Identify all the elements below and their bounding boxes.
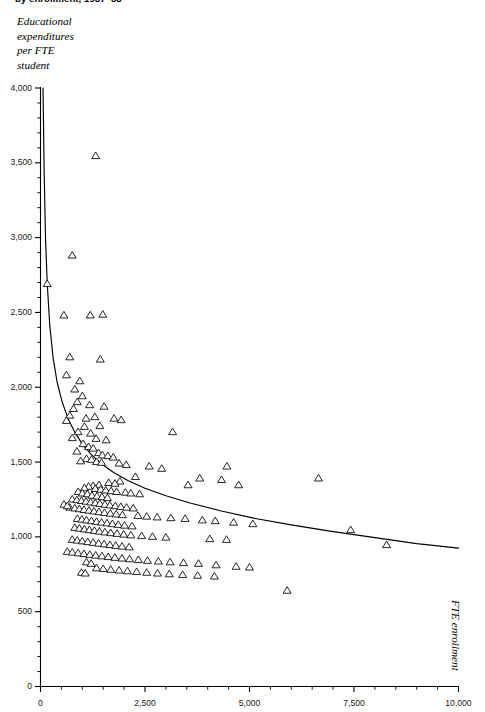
data-point-marker: [125, 543, 133, 550]
data-point-marker: [82, 415, 90, 422]
data-point-marker: [122, 461, 130, 468]
data-point-marker: [235, 481, 243, 488]
data-point-marker: [145, 462, 153, 469]
data-point-marker: [123, 567, 131, 574]
axis-layer: [35, 87, 459, 692]
fit-curve: [43, 88, 458, 548]
data-point-marker: [118, 543, 126, 550]
data-point-marker: [134, 512, 142, 519]
data-point-marker: [143, 569, 151, 576]
data-point-marker: [123, 504, 131, 511]
data-point-marker: [166, 558, 174, 565]
data-point-marker: [73, 447, 81, 454]
y-axis-tick-label: 1,500: [2, 457, 32, 467]
data-point-marker: [80, 423, 88, 430]
data-point-marker: [117, 416, 125, 423]
data-point-marker: [129, 504, 137, 511]
data-point-marker: [107, 529, 115, 536]
data-point-marker: [86, 311, 94, 318]
data-point-marker: [144, 557, 152, 564]
data-point-marker: [92, 152, 100, 159]
data-point-marker: [92, 551, 100, 558]
y-axis-tick-label: 2,500: [2, 307, 32, 317]
data-point-marker: [126, 555, 134, 562]
data-point-marker: [179, 559, 187, 566]
data-point-marker: [111, 554, 119, 561]
data-point-marker: [78, 392, 86, 399]
regression-curve: [43, 88, 458, 548]
data-point-marker: [283, 587, 291, 594]
data-point-marker: [217, 476, 225, 483]
data-point-marker: [184, 481, 192, 488]
data-point-marker: [347, 526, 355, 533]
y-axis-caption: Educational expenditures per FTE student: [17, 14, 74, 72]
data-point-marker: [104, 553, 112, 560]
chart-title: by enrollment, 1987–88: [15, 0, 122, 4]
data-point-marker: [112, 542, 120, 549]
data-point-marker: [127, 531, 135, 538]
data-point-marker: [102, 436, 110, 443]
data-point-marker: [114, 521, 122, 528]
y-axis-caption-line-3: per FTE: [17, 43, 74, 58]
data-point-marker: [121, 522, 129, 529]
data-point-marker: [62, 371, 70, 378]
data-point-marker: [71, 385, 79, 392]
y-axis-tick-label: 500: [2, 606, 32, 616]
data-point-marker: [91, 413, 99, 420]
y-axis-caption-line-2: expenditures: [17, 29, 74, 44]
data-point-marker: [120, 531, 128, 538]
data-point-marker: [98, 552, 106, 559]
data-point-marker: [196, 474, 204, 481]
data-point-marker: [107, 566, 115, 573]
data-point-marker: [76, 377, 84, 384]
data-point-marker: [212, 561, 220, 568]
data-point-marker: [154, 557, 162, 564]
data-point-marker: [118, 511, 126, 518]
data-point-marker: [169, 428, 177, 435]
data-point-marker: [99, 311, 107, 318]
y-axis-tick-label: 2,000: [2, 382, 32, 392]
data-point-marker: [68, 251, 76, 258]
data-point-marker: [115, 566, 123, 573]
x-axis-caption: FTE enrollment: [450, 600, 462, 671]
data-point-marker: [133, 568, 141, 575]
data-point-marker: [181, 515, 189, 522]
data-point-marker: [230, 519, 238, 526]
data-point-marker: [223, 462, 231, 469]
data-point-marker: [198, 516, 206, 523]
data-point-marker: [210, 572, 218, 579]
data-point-marker: [383, 541, 391, 548]
data-point-marker: [96, 355, 104, 362]
data-point-marker: [100, 403, 108, 410]
data-point-marker: [194, 572, 202, 579]
data-point-marker: [70, 405, 78, 412]
data-point-marker: [314, 474, 322, 481]
x-axis-tick-label: 7,500: [324, 698, 384, 708]
data-points-layer: [43, 152, 390, 593]
y-axis-caption-line-4: student: [17, 58, 74, 73]
data-point-marker: [96, 422, 104, 429]
data-point-marker: [134, 556, 142, 563]
x-axis-tick-label: 5,000: [220, 698, 280, 708]
data-point-marker: [128, 522, 136, 529]
data-point-marker: [143, 513, 151, 520]
data-point-marker: [158, 465, 166, 472]
y-axis-caption-line-1: Educational: [17, 14, 74, 29]
y-axis-tick-label: 4,000: [2, 83, 32, 93]
data-point-marker: [149, 533, 157, 540]
data-point-marker: [86, 401, 94, 408]
scatter-plot: [0, 0, 485, 712]
data-point-marker: [246, 563, 254, 570]
data-point-marker: [99, 565, 107, 572]
y-axis-tick-label: 3,000: [2, 232, 32, 242]
data-point-marker: [110, 415, 118, 422]
y-axis-tick-label: 0: [2, 681, 32, 691]
data-point-marker: [154, 569, 162, 576]
data-point-marker: [60, 311, 68, 318]
data-point-marker: [153, 513, 161, 520]
x-axis-tick-label: 2,500: [115, 698, 175, 708]
data-point-marker: [167, 514, 175, 521]
data-point-marker: [162, 534, 170, 541]
data-point-marker: [232, 563, 240, 570]
data-point-marker: [206, 535, 214, 542]
